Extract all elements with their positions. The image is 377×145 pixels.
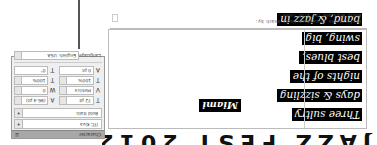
body-line: swing, big: [302, 32, 362, 45]
language-value: English: USA: [47, 53, 76, 58]
vertical-scale-field[interactable]: T100%: [60, 77, 103, 85]
font-style-value: Bold Italic: [76, 111, 98, 116]
chevron-down-icon[interactable]: [60, 87, 67, 96]
body-line: nights of the: [290, 70, 362, 83]
panel-title: Character: [79, 132, 101, 137]
font-size-value[interactable]: 72 pt: [67, 97, 95, 106]
chevron-down-icon[interactable]: [14, 87, 21, 96]
headline-text: JAZZ FEST 2012: [102, 133, 371, 145]
chevron-down-icon[interactable]: [15, 52, 22, 59]
character-panel: Character ☰ ITC Kiva ▾ Bold Italic ▾ T72…: [11, 56, 105, 139]
chevron-down-icon[interactable]: ▾: [15, 120, 23, 128]
chevron-down-icon[interactable]: [14, 97, 21, 106]
baseline-shift-value[interactable]: 0 pt: [60, 67, 95, 76]
font-family-select[interactable]: ITC Kiva ▾: [14, 119, 102, 129]
guide-line[interactable]: [78, 0, 80, 49]
metrics-grid: T72 pt A(86.4 pt) VMetrics W0 T100% T100…: [14, 67, 102, 105]
font-size-icon: T: [94, 98, 102, 105]
caption-text: Performances throughout South Beach by: …: [255, 12, 361, 24]
leading-value[interactable]: (86.4 pt): [21, 97, 49, 106]
chevron-down-icon[interactable]: ▾: [15, 109, 23, 117]
tracking-field[interactable]: W0: [14, 87, 57, 95]
language-label: Language:: [79, 53, 102, 58]
kerning-icon: V: [94, 88, 102, 95]
frame-handle[interactable]: [112, 14, 118, 22]
vertical-scale-value[interactable]: 100%: [67, 77, 95, 86]
kerning-value[interactable]: Metrics: [67, 87, 95, 96]
kerning-field[interactable]: VMetrics: [60, 87, 103, 95]
language-select[interactable]: English: USA: [14, 51, 79, 60]
baseline-shift-icon: A: [94, 68, 102, 75]
tracking-value[interactable]: 0: [21, 87, 49, 96]
chevron-down-icon[interactable]: [60, 77, 67, 86]
tracking-icon: W: [49, 88, 57, 95]
horizontal-scale-icon: T: [49, 78, 57, 85]
panel-header[interactable]: Character ☰: [12, 130, 104, 138]
language-row: Language: English: USA: [14, 51, 102, 63]
chevron-down-icon[interactable]: [14, 77, 21, 86]
body-text-frame[interactable]: Three sultry days & sizzling nights of t…: [302, 12, 362, 126]
vertical-scale-icon: T: [94, 78, 102, 85]
chevron-down-icon[interactable]: [60, 97, 67, 106]
city-label[interactable]: Miami: [199, 99, 241, 112]
caption-line: Performances throughout South Beach by:: [255, 18, 361, 24]
horizontal-scale-field[interactable]: T100%: [14, 77, 57, 85]
font-style-select[interactable]: Bold Italic ▾: [14, 108, 102, 118]
skew-value[interactable]: 0°: [14, 67, 49, 76]
leading-field[interactable]: A(86.4 pt): [14, 97, 57, 105]
panel-menu-icon[interactable]: ☰: [15, 131, 19, 138]
column-divider: [304, 30, 305, 128]
skew-icon: T: [49, 68, 57, 75]
page-frame[interactable]: Three sultry days & sizzling nights of t…: [108, 29, 367, 129]
headline-text-frame[interactable]: JAZZ FEST 2012: [102, 133, 377, 145]
workspace: JAZZ FEST 2012 Three sultry days & sizzl…: [0, 0, 377, 145]
caption-frame[interactable]: Performances throughout South Beach by: …: [110, 6, 367, 29]
body-line: Three sultry: [292, 108, 362, 121]
body-line: best blues,: [299, 51, 362, 64]
font-size-field[interactable]: T72 pt: [60, 97, 103, 105]
skew-field[interactable]: T0°: [14, 67, 57, 75]
horizontal-scale-value[interactable]: 100%: [21, 77, 49, 86]
leading-icon: A: [49, 98, 57, 105]
baseline-shift-field[interactable]: A0 pt: [60, 67, 103, 75]
font-family-value: ITC Kiva: [80, 122, 98, 127]
body-line: days & sizzling: [277, 89, 362, 102]
